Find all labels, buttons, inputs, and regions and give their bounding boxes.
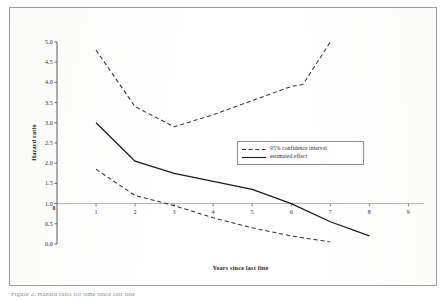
caption-crop-mask (11, 297, 311, 302)
x-axis-tick-label: 3 (173, 209, 176, 215)
x-axis-tick-label: 5 (251, 209, 254, 215)
legend-label-confidence-interval: 95% confidence interval (270, 146, 327, 152)
y-axis-tick-label: 4.5 (31, 59, 53, 65)
y-axis-tick-label: 0.0 (31, 241, 53, 247)
x-axis-tick-label: 9 (407, 209, 410, 215)
y-axis-tick-label: 1.0 (31, 201, 53, 207)
legend-item-estimated-effect: estimated effect (242, 153, 358, 161)
y-axis-tick-label: 4.0 (31, 79, 53, 85)
x-axis-tick-label: 7 (329, 209, 332, 215)
x-axis-tick-label: 8 (368, 209, 371, 215)
chart-plot-svg (10, 8, 438, 287)
series-upper-bound (96, 42, 330, 127)
chart-legend: 95% confidence interval estimated effect (237, 141, 364, 165)
y-axis-tick-label: 5.0 (31, 39, 53, 45)
origin-marker-label: 0 (53, 206, 56, 212)
figure-chart-area: Hazard ratio Years since last fine 0.00.… (10, 8, 436, 285)
scanned-page-frame: Hazard ratio Years since last fine 0.00.… (9, 7, 437, 286)
x-axis-tick-label: 1 (94, 209, 97, 215)
y-axis-tick-label: 0.5 (31, 221, 53, 227)
y-axis-tick-label: 1.5 (31, 180, 53, 186)
legend-label-estimated-effect: estimated effect (270, 154, 307, 160)
x-axis-title: Years since last fine (181, 264, 301, 271)
legend-item-confidence-interval: 95% confidence interval (242, 145, 358, 153)
solid-line-icon (242, 154, 266, 161)
x-axis-tick-label: 4 (212, 209, 215, 215)
dashed-line-icon (242, 146, 266, 153)
y-axis-tick-label: 2.0 (31, 160, 53, 166)
x-axis-tick-label: 2 (133, 209, 136, 215)
y-axis-tick-label: 3.5 (31, 100, 53, 106)
series-point-estimate (96, 123, 369, 236)
y-axis-tick-label: 3.0 (31, 120, 53, 126)
x-axis-tick-label: 6 (290, 209, 293, 215)
y-axis-tick-label: 2.5 (31, 140, 53, 146)
figure-caption-cropped: Figure 2. Hazard ratio for time since la… (11, 293, 311, 302)
